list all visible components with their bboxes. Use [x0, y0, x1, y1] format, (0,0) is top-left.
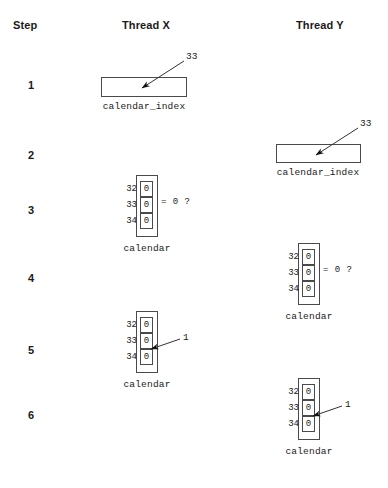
array-cell-value: 0	[140, 317, 153, 333]
array-row-index: 34	[285, 416, 299, 432]
array-cell-value: 0	[140, 349, 153, 365]
calendar-label-step3: calendar	[119, 243, 175, 254]
step-number-2: 2	[24, 149, 38, 161]
array-cells: 32 0 33 0 34 0	[302, 384, 315, 432]
array-row-index: 34	[123, 349, 137, 365]
pointer-value-step2: 33	[360, 118, 371, 129]
array-cap-bottom	[136, 372, 158, 373]
calendar-array-step5: 32 0 33 0 34 0	[136, 311, 158, 373]
array-row-index: 33	[285, 265, 299, 281]
array-row: 34 0	[302, 281, 315, 297]
compare-annotation-step4: = 0 ?	[323, 265, 353, 275]
calendar-index-box-step2	[276, 144, 361, 163]
array-cells: 32 0 33 0 34 0	[140, 181, 153, 229]
calendar-array-step3: 32 0 33 0 34 0	[136, 175, 158, 237]
array-row-index: 32	[123, 317, 137, 333]
array-rail-right	[157, 311, 158, 373]
array-cell-value: 0	[302, 281, 315, 297]
calendar-array-step4: 32 0 33 0 34 0	[298, 243, 320, 305]
array-rail-right	[319, 378, 320, 440]
step-number-3: 3	[24, 204, 38, 216]
array-row: 33 0	[140, 197, 153, 213]
array-row: 34 0	[140, 213, 153, 229]
array-row: 34 0	[140, 349, 153, 365]
array-row-index: 32	[123, 181, 137, 197]
array-row-index: 34	[285, 281, 299, 297]
array-cap-top	[298, 243, 320, 244]
array-cells: 32 0 33 0 34 0	[140, 317, 153, 365]
array-cap-top	[136, 311, 158, 312]
calendar-array-step6: 32 0 33 0 34 0	[298, 378, 320, 440]
array-row: 33 0	[302, 265, 315, 281]
array-cell-value: 0	[302, 249, 315, 265]
array-row-index: 33	[123, 197, 137, 213]
calendar-label-step4: calendar	[281, 311, 337, 322]
array-cap-bottom	[136, 236, 158, 237]
arrow-overlay	[0, 0, 388, 488]
array-cell-value: 0	[302, 384, 315, 400]
step-number-5: 5	[24, 344, 38, 356]
array-cell-value: 0	[140, 197, 153, 213]
array-cell-value: 0	[140, 333, 153, 349]
array-row-index: 33	[285, 400, 299, 416]
column-header-thread-x: Thread X	[122, 19, 170, 31]
array-cell-value: 0	[140, 213, 153, 229]
array-cell-value: 0	[302, 416, 315, 432]
calendar-label-step6: calendar	[281, 446, 337, 457]
array-cap-bottom	[298, 304, 320, 305]
step-number-1: 1	[24, 79, 38, 91]
array-row: 33 0	[140, 333, 153, 349]
array-rail-right	[319, 243, 320, 305]
compare-annotation-step3: = 0 ?	[161, 197, 191, 207]
array-row: 32 0	[140, 181, 153, 197]
array-row-index: 32	[285, 384, 299, 400]
column-header-thread-y: Thread Y	[296, 19, 344, 31]
diagram-canvas: Step Thread X Thread Y 1 2 3 4 5 6 calen…	[0, 0, 388, 488]
array-row-index: 32	[285, 249, 299, 265]
calendar-index-box-step1	[101, 77, 187, 97]
column-header-step: Step	[13, 19, 37, 31]
write-value-step6: 1	[345, 399, 351, 410]
array-row: 34 0	[302, 416, 315, 432]
calendar-index-label-step2: calendar_index	[275, 167, 361, 178]
array-row-index: 33	[123, 333, 137, 349]
pointer-value-step1: 33	[186, 51, 197, 62]
array-row: 32 0	[302, 384, 315, 400]
array-cap-top	[298, 378, 320, 379]
calendar-index-label-step1: calendar_index	[101, 101, 187, 112]
array-row: 32 0	[302, 249, 315, 265]
step-number-6: 6	[24, 409, 38, 421]
array-rail-right	[157, 175, 158, 237]
array-cap-top	[136, 175, 158, 176]
write-value-step5: 1	[183, 332, 189, 343]
step-number-4: 4	[24, 272, 38, 284]
array-row-index: 34	[123, 213, 137, 229]
array-cell-value: 0	[302, 265, 315, 281]
array-cap-bottom	[298, 439, 320, 440]
array-cell-value: 0	[302, 400, 315, 416]
array-cells: 32 0 33 0 34 0	[302, 249, 315, 297]
array-cell-value: 0	[140, 181, 153, 197]
calendar-label-step5: calendar	[119, 379, 175, 390]
array-row: 32 0	[140, 317, 153, 333]
array-row: 33 0	[302, 400, 315, 416]
